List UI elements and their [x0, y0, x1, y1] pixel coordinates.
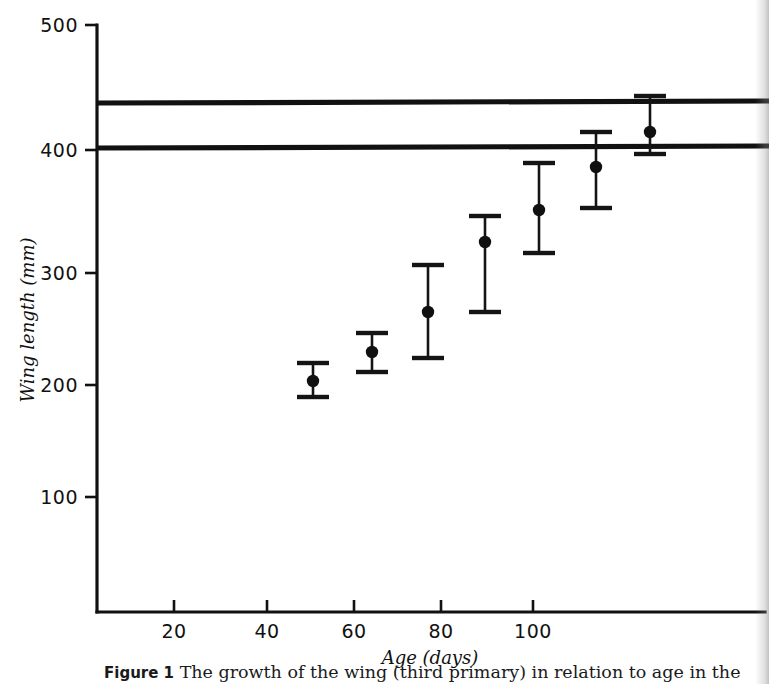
x-tick-label-20: 20 — [161, 620, 186, 642]
y-tick-label-500: 500 — [40, 14, 78, 36]
data-point-group — [356, 333, 388, 372]
adult-lower-reference-line — [97, 146, 769, 148]
adult-upper-reference-line — [97, 101, 769, 103]
figure-panel: 500 400 300 200 100 20 40 60 80 100 Age … — [0, 0, 769, 684]
figure-caption-label: Figure 1 — [104, 664, 174, 682]
y-tick-label-100: 100 — [40, 486, 78, 508]
figure-caption: Figure 1 The growth of the wing (third p… — [104, 662, 764, 684]
data-point-marker — [479, 236, 491, 248]
wing-length-scatter-chart: 500 400 300 200 100 20 40 60 80 100 Age … — [0, 0, 769, 684]
data-point-marker — [366, 346, 378, 358]
data-point-group — [469, 216, 501, 312]
x-tick-label-80: 80 — [428, 620, 453, 642]
data-point-group — [297, 363, 329, 397]
data-point-marker — [422, 306, 434, 318]
data-point-group — [523, 163, 555, 253]
figure-caption-text: The growth of the wing (third primary) i… — [180, 662, 741, 682]
x-tick-label-60: 60 — [341, 620, 366, 642]
data-point-marker — [590, 161, 602, 173]
data-point-group — [580, 132, 612, 208]
data-point-marker — [644, 126, 656, 138]
data-point-marker — [533, 204, 545, 216]
x-tick-label-100: 100 — [514, 620, 552, 642]
y-axis-title: Wing length (mm) — [17, 237, 38, 402]
x-tick-label-40: 40 — [254, 620, 279, 642]
data-point-marker — [307, 375, 319, 387]
y-tick-label-200: 200 — [40, 374, 78, 396]
y-tick-label-400: 400 — [40, 139, 78, 161]
y-tick-label-300: 300 — [40, 262, 78, 284]
data-point-group — [412, 265, 444, 358]
